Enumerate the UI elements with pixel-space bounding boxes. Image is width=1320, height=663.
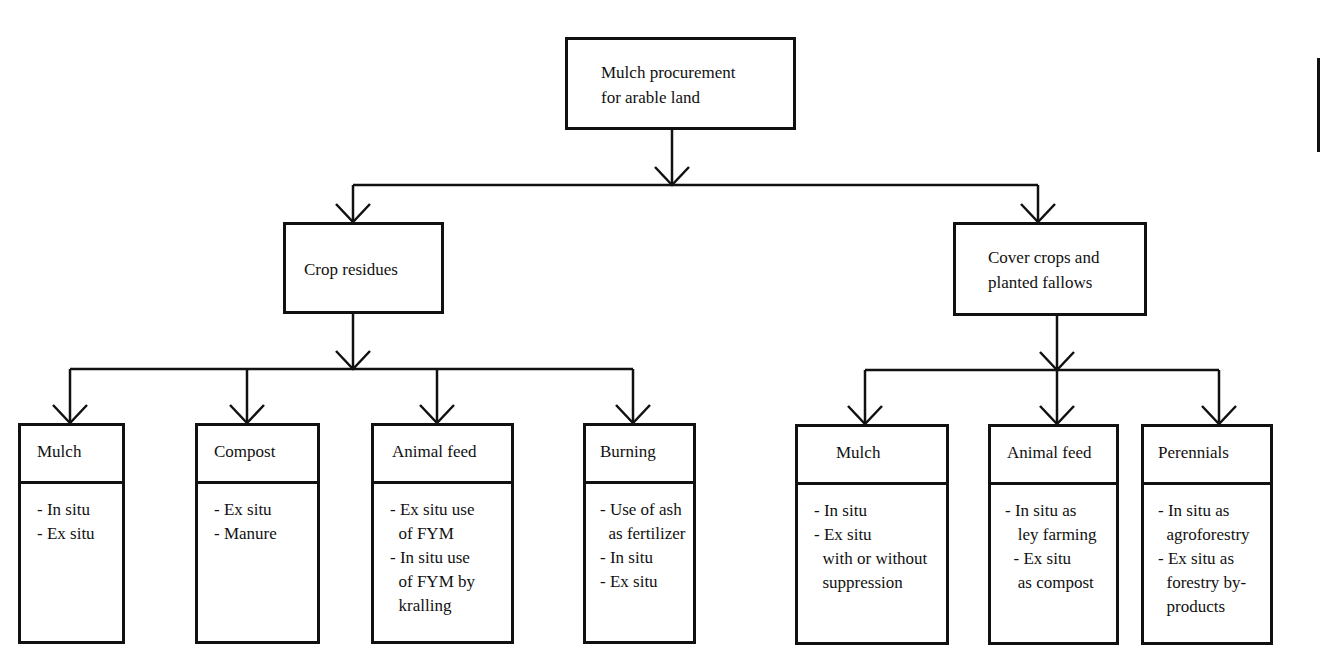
leaf-item: - In situ as: [1158, 499, 1250, 523]
leaf-item: - Ex situ: [1005, 547, 1097, 571]
leaf-item: - Ex situ: [37, 522, 95, 546]
leaf-item: suppression: [814, 571, 927, 595]
leaf-cover-perennials: Perennials - In situ as agroforestry - E…: [1141, 424, 1273, 645]
leaf-item: forestry by-: [1158, 571, 1250, 595]
crop-residues-label: Crop residues: [304, 257, 398, 282]
leaf-item: - In situ as: [1005, 499, 1097, 523]
leaf-item: of FYM by: [390, 570, 475, 594]
cover-crops-label-line-1: Cover crops and: [988, 245, 1099, 270]
leaf-crop-burning: Burning - Use of ash as fertilizer - In …: [583, 423, 696, 644]
leaf-cover-animal-feed: Animal feed - In situ as ley farming - E…: [988, 424, 1119, 645]
leaf-item: ley farming: [1005, 523, 1097, 547]
leaf-item: kralling: [390, 594, 475, 618]
leaf-item: of FYM: [390, 522, 475, 546]
leaf-item: - In situ use: [390, 546, 475, 570]
root-label-line-2: for arable land: [601, 85, 700, 110]
leaf-crop-animal-feed: Animal feed - Ex situ use of FYM - In si…: [371, 423, 514, 644]
crop-residues-node: Crop residues: [283, 222, 444, 314]
leaf-item: agroforestry: [1158, 523, 1250, 547]
leaf-item: with or without: [814, 547, 927, 571]
leaf-item: - In situ: [600, 546, 685, 570]
leaf-item: as compost: [1005, 571, 1097, 595]
leaf-item: - Ex situ as: [1158, 547, 1250, 571]
cover-crops-label-line-2: planted fallows: [988, 270, 1092, 295]
leaf-title: Animal feed: [1007, 443, 1092, 463]
leaf-item: - Ex situ use: [390, 498, 475, 522]
leaf-title: Perennials: [1158, 443, 1229, 463]
root-label-line-1: Mulch procurement: [601, 60, 736, 85]
leaf-item: - Manure: [214, 522, 277, 546]
leaf-item: products: [1158, 595, 1250, 619]
leaf-title: Compost: [214, 442, 275, 462]
cover-crops-node: Cover crops and planted fallows: [953, 222, 1147, 316]
leaf-title: Burning: [600, 442, 656, 462]
leaf-title: Mulch: [836, 443, 880, 463]
leaf-item: - Use of ash: [600, 498, 685, 522]
leaf-item: as fertilizer: [600, 522, 685, 546]
root-node: Mulch procurement for arable land: [565, 37, 796, 130]
leaf-item: - Ex situ: [214, 498, 277, 522]
leaf-item: - In situ: [37, 498, 95, 522]
leaf-title: Mulch: [37, 442, 81, 462]
leaf-cover-mulch: Mulch - In situ - Ex situ with or withou…: [795, 424, 949, 645]
leaf-title: Animal feed: [392, 442, 477, 462]
leaf-crop-mulch: Mulch - In situ - Ex situ: [18, 423, 125, 644]
leaf-item: - Ex situ: [814, 523, 927, 547]
leaf-item: - Ex situ: [600, 570, 685, 594]
leaf-item: - In situ: [814, 499, 927, 523]
leaf-crop-compost: Compost - Ex situ - Manure: [195, 423, 320, 644]
